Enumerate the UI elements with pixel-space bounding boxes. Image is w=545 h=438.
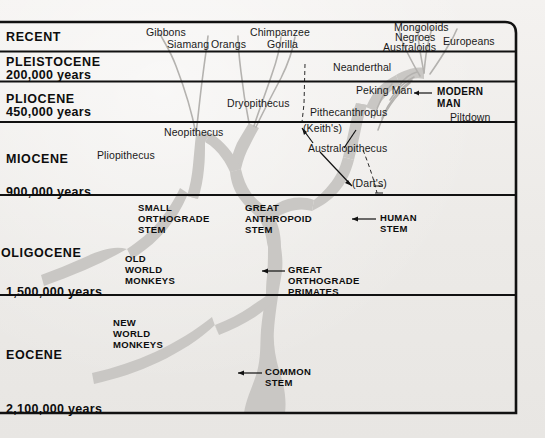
fossil-label-neanderthal: Neanderthal [333, 62, 391, 73]
fossil-label-pliopithecus: Pliopithecus [97, 150, 155, 161]
fossil-label-australopithecus: Australopithecus [308, 143, 387, 154]
stem-label-old-world-monkeys: OLD WORLD MONKEYS [125, 254, 175, 287]
old-world-line3: MONKEYS [125, 276, 175, 287]
epoch-years-pleistocene: 200,000 years [6, 69, 91, 82]
arrowhead-modern-man [414, 91, 419, 96]
stem-label-great-anthropoid: GREAT ANTHROPOID STEM [245, 203, 312, 236]
dashed-keiths-line [302, 64, 305, 122]
epoch-years-pliocene: 450,000 years [6, 106, 91, 119]
crown-label-siamang: Siamang [167, 39, 209, 50]
fossil-label-neopithecus: Neopithecus [164, 127, 223, 138]
arrowhead-human-stem [352, 217, 358, 222]
epoch-label-oligocene: OLIGOCENE [1, 247, 81, 260]
stem-label-common-stem: COMMON STEM [265, 367, 311, 389]
small-orthograde-line3: STEM [138, 225, 210, 236]
great-ortho-line3: PRIMATES [288, 287, 360, 298]
stem-label-modern-man: MODERN MAN [437, 86, 483, 109]
epoch-label-miocene: MIOCENE [6, 153, 69, 166]
human-stem-line2: STEM [380, 224, 417, 235]
epoch-label-eocene: EOCENE [6, 349, 62, 362]
common-stem-line2: STEM [265, 378, 311, 389]
epoch-years-eocene: 2,100,000 years [6, 403, 102, 416]
evolution-tree-figure: RECENT PLEISTOCENE 200,000 years PLIOCEN… [0, 0, 545, 438]
great-anthropoid-line3: STEM [245, 225, 312, 236]
fossil-label-keiths: (Keith's) [303, 123, 342, 134]
crown-label-europeans: Europeans [443, 36, 495, 47]
tree-silhouette [41, 68, 424, 413]
arrowhead-aus-darts [345, 180, 352, 186]
fossil-label-pithecanthropus: Pithecanthropus [310, 107, 387, 118]
stem-label-small-orthograde: SMALL ORTHOGRADE STEM [138, 203, 210, 236]
modern-man-line1: MODERN [437, 86, 483, 98]
crown-label-orangs: Orangs [211, 39, 246, 50]
stem-label-new-world-monkeys: NEW WORLD MONKEYS [113, 318, 163, 351]
new-world-line3: MONKEYS [113, 340, 163, 351]
crown-label-australoids: Ausfraloids [383, 42, 436, 53]
epoch-years-oligocene: 1,500,000 years [6, 286, 102, 299]
stem-label-human-stem: HUMAN STEM [380, 213, 417, 235]
fossil-label-dryopithecus: Dryopithecus [227, 98, 289, 109]
stem-label-great-orthograde-primates: GREAT ORTHOGRADE PRIMATES [288, 265, 360, 298]
fossil-label-darts: (Dart's) [352, 178, 387, 189]
modern-man-line2: MAN [437, 98, 483, 110]
crown-label-chimpanzee: Chimpanzee [250, 27, 310, 38]
fossil-label-piltdown: Piltdown [450, 112, 491, 123]
epoch-years-miocene: 900,000 years [6, 186, 91, 199]
crown-label-gibbons: Gibbons [146, 27, 186, 38]
fossil-label-peking-man: Peking Man [356, 85, 412, 96]
crown-label-gorilla: Gorilla [267, 39, 298, 50]
arrowhead-great-orthograde [262, 269, 268, 274]
arrowhead-common-stem [238, 371, 244, 376]
epoch-label-recent: RECENT [6, 31, 61, 44]
